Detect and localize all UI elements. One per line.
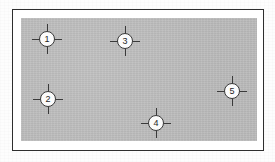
control-point-label: 1 bbox=[44, 35, 49, 44]
figure-frame-border: 12345 bbox=[12, 9, 264, 151]
control-point-label: 4 bbox=[153, 119, 158, 128]
crosshair-tick-down-icon bbox=[47, 46, 48, 54]
control-point-label: 3 bbox=[122, 37, 127, 46]
figure-root: 12345 bbox=[0, 0, 275, 162]
crosshair-tick-right-icon bbox=[163, 123, 171, 124]
control-point-label: 5 bbox=[229, 87, 234, 96]
crosshair-tick-down-icon bbox=[125, 48, 126, 56]
crosshair-tick-down-icon bbox=[48, 106, 49, 114]
control-point-marker-4[interactable]: 4 bbox=[141, 108, 171, 138]
control-point-label: 2 bbox=[45, 95, 50, 104]
crosshair-tick-right-icon bbox=[132, 41, 140, 42]
crosshair-circle-icon: 2 bbox=[40, 91, 56, 107]
crosshair-circle-icon: 3 bbox=[117, 33, 133, 49]
crosshair-tick-right-icon bbox=[54, 39, 62, 40]
control-point-marker-2[interactable]: 2 bbox=[33, 84, 63, 114]
crosshair-circle-icon: 5 bbox=[224, 83, 240, 99]
crosshair-tick-right-icon bbox=[55, 99, 63, 100]
crosshair-circle-icon: 4 bbox=[148, 115, 164, 131]
control-point-marker-1[interactable]: 1 bbox=[32, 24, 62, 54]
crosshair-circle-icon: 1 bbox=[39, 31, 55, 47]
crosshair-tick-down-icon bbox=[156, 130, 157, 138]
crosshair-tick-right-icon bbox=[239, 91, 247, 92]
control-point-marker-3[interactable]: 3 bbox=[110, 26, 140, 56]
control-point-marker-5[interactable]: 5 bbox=[217, 76, 247, 106]
crosshair-tick-down-icon bbox=[232, 98, 233, 106]
